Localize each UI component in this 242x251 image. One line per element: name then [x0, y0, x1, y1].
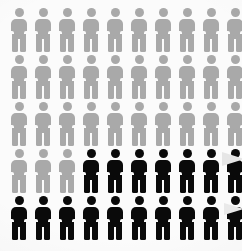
person-icon — [83, 8, 99, 52]
person-icon — [227, 149, 242, 193]
person-icon — [179, 102, 195, 146]
person-icon — [227, 8, 242, 52]
person-icon — [203, 196, 219, 240]
person-icon — [155, 102, 171, 146]
person-icon — [179, 8, 195, 52]
person-icon — [203, 55, 219, 99]
person-icon — [131, 8, 147, 52]
person-icon — [83, 196, 99, 240]
person-icon — [59, 55, 75, 99]
person-icon — [155, 55, 171, 99]
pictogram-row — [0, 102, 242, 149]
person-icon — [107, 102, 123, 146]
person-icon — [35, 55, 51, 99]
pictogram-row — [0, 55, 242, 102]
person-icon — [179, 55, 195, 99]
person-icon — [59, 196, 75, 240]
person-icon — [227, 196, 242, 240]
person-icon — [131, 149, 147, 193]
person-icon — [107, 55, 123, 99]
person-icon — [131, 102, 147, 146]
pictogram-row — [0, 196, 242, 243]
person-icon — [227, 102, 242, 146]
person-icon — [11, 102, 27, 146]
person-icon — [107, 196, 123, 240]
person-icon — [203, 102, 219, 146]
person-icon — [179, 149, 195, 193]
pictogram-row — [0, 149, 242, 196]
person-icon — [107, 149, 123, 193]
person-icon — [179, 196, 195, 240]
person-icon — [35, 8, 51, 52]
person-icon — [155, 8, 171, 52]
person-icon — [107, 8, 123, 52]
person-icon — [155, 196, 171, 240]
person-icon — [227, 55, 242, 99]
person-icon — [155, 149, 171, 193]
person-icon — [203, 149, 219, 193]
person-icon — [83, 102, 99, 146]
person-icon — [59, 102, 75, 146]
person-icon — [11, 8, 27, 52]
person-icon — [203, 8, 219, 52]
pictogram-grid — [0, 0, 242, 251]
person-icon — [35, 102, 51, 146]
person-icon — [83, 149, 99, 193]
pictogram-row — [0, 8, 242, 55]
person-icon — [11, 55, 27, 99]
person-icon — [131, 55, 147, 99]
person-icon — [83, 55, 99, 99]
person-icon — [35, 196, 51, 240]
person-icon — [11, 196, 27, 240]
person-icon — [131, 196, 147, 240]
person-icon — [59, 149, 75, 193]
pictogram-chart — [0, 0, 242, 251]
person-icon — [11, 149, 27, 193]
person-icon — [59, 8, 75, 52]
person-icon — [35, 149, 51, 193]
